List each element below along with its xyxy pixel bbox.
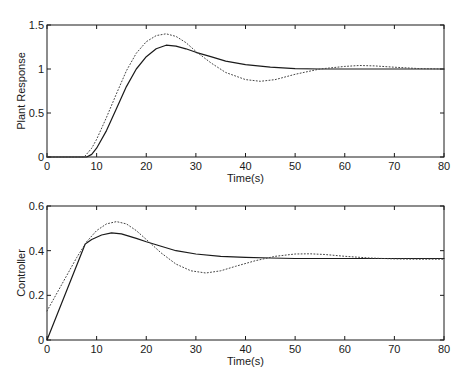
x-axis-label: Time(s) [227, 355, 264, 367]
y-tick-label: 0.2 [29, 289, 44, 301]
y-tick-label: 0.4 [29, 245, 44, 257]
axes-frame [47, 25, 444, 157]
x-tick-label: 0 [44, 343, 50, 355]
figure: 0102030405060708000.511.5Time(s)Plant Re… [0, 0, 465, 378]
x-tick-label: 80 [438, 160, 450, 172]
y-tick-label: 0.6 [29, 200, 44, 212]
x-tick-label: 20 [140, 160, 152, 172]
y-axis-label: Controller [15, 249, 27, 297]
x-tick-label: 50 [289, 343, 301, 355]
y-axis-label: Plant Response [15, 52, 27, 130]
x-tick-label: 10 [91, 160, 103, 172]
y-tick-label: 1.5 [29, 19, 44, 31]
x-tick-label: 60 [339, 343, 351, 355]
x-tick-label: 0 [44, 160, 50, 172]
dotted-series-line [47, 222, 444, 311]
axes-frame [47, 206, 444, 340]
x-tick-label: 80 [438, 343, 450, 355]
y-tick-label: 0.5 [29, 107, 44, 119]
x-axis-label: Time(s) [227, 172, 264, 184]
dotted-series-line [47, 34, 444, 157]
x-tick-label: 70 [388, 160, 400, 172]
controller-plot: 0102030405060708000.20.40.6Time(s)Contro… [15, 200, 450, 367]
x-tick-label: 30 [190, 160, 202, 172]
x-tick-label: 10 [91, 343, 103, 355]
x-tick-label: 40 [239, 160, 251, 172]
y-tick-label: 1 [38, 63, 44, 75]
solid-series-line [47, 45, 444, 157]
x-tick-label: 20 [140, 343, 152, 355]
x-tick-label: 30 [190, 343, 202, 355]
x-tick-label: 50 [289, 160, 301, 172]
y-tick-label: 0 [38, 334, 44, 346]
x-tick-label: 70 [388, 343, 400, 355]
x-tick-label: 40 [239, 343, 251, 355]
y-tick-label: 0 [38, 151, 44, 163]
plant-response-plot: 0102030405060708000.511.5Time(s)Plant Re… [15, 19, 450, 184]
x-tick-label: 60 [339, 160, 351, 172]
solid-series-line [47, 233, 444, 340]
